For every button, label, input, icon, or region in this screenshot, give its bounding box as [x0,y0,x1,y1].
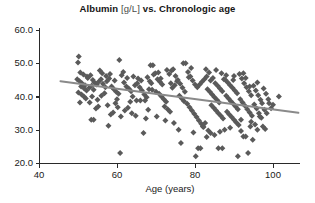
y-axis-tick-label: 30.0 [1,124,33,135]
data-point [76,54,82,60]
data-point [87,99,93,105]
x-axis-tick-label: 80 [180,169,210,180]
x-axis-tick-label: 60 [102,169,132,180]
data-point [141,130,147,136]
data-point [238,117,244,123]
data-point [117,150,123,156]
data-point [204,134,210,140]
y-axis-tick-label: 40.0 [1,91,33,102]
data-point [145,107,151,113]
data-point [105,123,111,129]
data-point [171,120,177,126]
data-point [235,153,241,159]
x-axis-tick-label: 100 [258,169,288,180]
data-point [276,94,282,100]
data-point [261,86,267,92]
data-point [230,77,236,83]
data-point [193,153,199,159]
data-point [227,125,233,131]
y-axis-tick-label: 60.0 [1,24,33,35]
data-point [245,150,251,156]
data-point [118,113,124,119]
data-point [124,75,130,81]
data-point [254,80,260,86]
x-axis-tick-label: 40 [24,169,54,180]
data-point [190,129,196,135]
y-axis-tick-label: 20.0 [1,157,33,168]
data-point [213,67,219,73]
data-point [154,113,160,119]
data-point [263,91,269,97]
data-point [162,117,168,123]
data-point [254,127,260,133]
data-point [178,140,184,146]
data-point [176,127,182,133]
data-point [89,94,95,100]
data-point [112,78,118,84]
data-point [143,115,149,121]
data-point [130,94,136,100]
y-axis-tick-label: 50.0 [1,57,33,68]
data-point [77,99,83,105]
data-point [116,57,122,63]
data-point [95,97,101,103]
data-point [250,137,256,143]
data-point [238,128,244,134]
data-point [75,60,81,66]
data-point [219,145,225,151]
data-point [127,99,133,105]
x-axis-title: Age (years) [39,183,301,194]
data-point [105,102,111,108]
scatter-chart: Albumin [g/L] vs. Chronologic age 20.030… [0,0,315,203]
